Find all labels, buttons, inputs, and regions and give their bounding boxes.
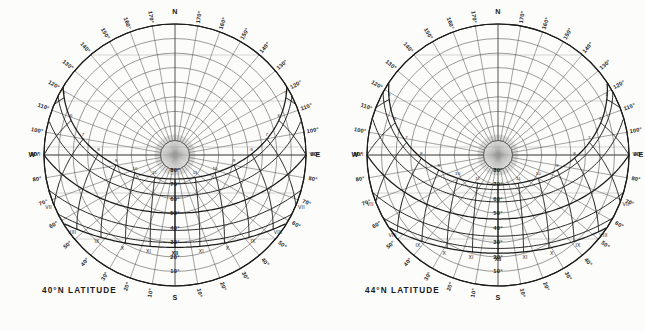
hour-label-arabic: 8	[97, 147, 100, 152]
cardinal-label-north: N	[495, 7, 500, 16]
azimuth-label: 120°	[370, 79, 384, 90]
chart-caption-44n: 44°N LATITUDE	[365, 286, 440, 295]
azimuth-label: 130°	[598, 58, 611, 71]
hour-label-roman: VIII	[599, 232, 607, 238]
azimuth-label: 20°	[445, 281, 454, 292]
azimuth-label: 30°	[241, 271, 251, 282]
azimuth-label: 130°	[275, 58, 288, 71]
hour-label-arabic: 11	[152, 170, 157, 175]
hour-label-roman: X	[442, 250, 446, 256]
diagram-sheet: NSEW10°10°20°20°30°30°40°40°50°50°60°60°…	[0, 0, 645, 331]
hour-label-roman: VII	[367, 201, 374, 207]
azimuth-label: 150°	[423, 27, 434, 41]
azimuth-label: 60°	[371, 220, 382, 230]
azimuth-label: 160°	[541, 16, 551, 30]
hour-label-roman: X	[226, 245, 230, 251]
azimuth-label: 60°	[48, 220, 59, 230]
hour-label-arabic: 8	[420, 151, 423, 156]
cardinal-label-south: S	[173, 293, 178, 302]
hour-label-roman: VI	[632, 151, 637, 157]
hour-label-roman: IX	[575, 242, 581, 248]
hour-label-roman: VI	[309, 151, 314, 157]
azimuth-label: 100°	[306, 126, 319, 134]
azimuth-label: 50°	[600, 239, 611, 249]
azimuth-label: 140°	[258, 41, 271, 54]
hour-label-arabic: 5	[605, 92, 608, 97]
azimuth-label: 140°	[402, 41, 415, 54]
azimuth-label: 130°	[61, 58, 74, 71]
altitude-label: 70°	[170, 181, 180, 187]
azimuth-label: 40°	[583, 256, 593, 267]
hour-label-roman: VII	[622, 201, 629, 207]
hour-label-arabic: 5	[388, 92, 391, 97]
hour-label-arabic: 7	[588, 135, 591, 140]
hour-label-roman: VI	[35, 151, 40, 157]
azimuth-label: 20°	[219, 281, 228, 292]
azimuth-label: 170°	[470, 10, 478, 23]
hour-label-arabic: 10	[455, 171, 461, 176]
sunpath-svg-40n: NSEW10°10°20°20°30°30°40°40°50°50°60°60°…	[0, 0, 322, 331]
azimuth-label: 110°	[37, 102, 50, 112]
hour-label-arabic: 5	[63, 90, 66, 95]
azimuth-label: 40°	[402, 256, 412, 267]
azimuth-label: 40°	[260, 256, 270, 267]
azimuth-label: 150°	[239, 27, 250, 41]
hour-label-roman: XI	[522, 254, 527, 260]
azimuth-label: 60°	[291, 220, 302, 230]
hour-label-roman: XII	[172, 250, 179, 256]
altitude-label: 30°	[493, 239, 503, 245]
azimuth-label: 100°	[629, 126, 642, 134]
azimuth-label: 140°	[79, 41, 92, 54]
azimuth-label: 150°	[562, 27, 573, 41]
hour-label-arabic: 6	[394, 116, 397, 121]
cardinal-label-south: S	[496, 293, 501, 302]
hour-label-arabic: 9	[115, 158, 118, 163]
hour-label-roman: VIII	[274, 229, 282, 235]
hour-label-roman: IX	[94, 238, 100, 244]
hour-label-arabic: 8	[573, 151, 576, 156]
hour-label-roman: VII	[45, 204, 52, 210]
azimuth-label: 170°	[195, 10, 203, 23]
azimuth-label: 30°	[423, 271, 433, 282]
hour-label-roman: VII	[298, 204, 305, 210]
altitude-label: 60°	[493, 196, 503, 202]
hour-label-arabic: 7	[405, 135, 408, 140]
hour-label-roman: VI	[358, 151, 363, 157]
azimuth-label: 110°	[300, 102, 313, 112]
altitude-label: 30°	[170, 239, 180, 245]
hour-label-roman: XI	[199, 248, 204, 254]
azimuth-label: 160°	[123, 16, 133, 30]
azimuth-label: 10°	[469, 288, 476, 298]
azimuth-label: 120°	[612, 79, 626, 90]
altitude-label: 10°	[170, 268, 180, 274]
hour-label-roman: X	[121, 245, 125, 251]
sunpath-chart-40n: NSEW10°10°20°20°30°30°40°40°50°50°60°60°…	[0, 0, 322, 331]
azimuth-label: 50°	[385, 239, 396, 249]
azimuth-label: 20°	[122, 281, 131, 292]
azimuth-label: 50°	[62, 239, 73, 249]
azimuth-label: 100°	[354, 126, 367, 134]
azimuth-label: 160°	[218, 16, 228, 30]
altitude-label: 50°	[170, 210, 180, 216]
hour-label-roman: VIII	[68, 229, 76, 235]
azimuth-label: 80°	[32, 175, 42, 182]
hour-label-arabic: 11	[475, 176, 480, 181]
hour-label-roman: IX	[415, 242, 421, 248]
azimuth-label: 30°	[564, 271, 574, 282]
azimuth-label: 30°	[100, 271, 110, 282]
azimuth-label: 110°	[360, 102, 373, 112]
hour-label-roman: XI	[468, 254, 473, 260]
altitude-label: 50°	[493, 210, 503, 216]
hour-label-arabic: 8	[250, 147, 253, 152]
hour-label-arabic: 7	[265, 132, 268, 137]
hour-label-arabic: 6	[70, 113, 73, 118]
hour-label-roman: XII	[495, 256, 502, 262]
hour-label-arabic: 5	[285, 90, 288, 95]
cardinal-label-north: N	[172, 7, 177, 16]
azimuth-label: 150°	[100, 27, 111, 41]
hour-label-arabic: 9	[437, 163, 440, 168]
hour-label-arabic: 11	[516, 176, 521, 181]
azimuth-label: 80°	[308, 175, 318, 182]
azimuth-label: 10°	[196, 288, 203, 298]
azimuth-label: 40°	[79, 256, 89, 267]
